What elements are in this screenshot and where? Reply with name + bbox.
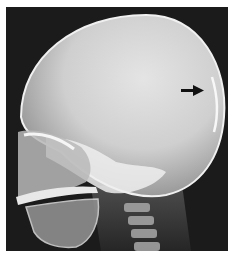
mandible [26, 199, 99, 247]
radiograph-figure [0, 0, 236, 258]
skull-xray-image [6, 7, 228, 251]
